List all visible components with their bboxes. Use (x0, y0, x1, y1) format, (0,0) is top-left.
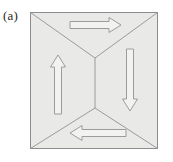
figure-panel: (a) (0, 0, 173, 162)
domain-structure-diagram (0, 0, 173, 162)
domain-fills (30, 12, 158, 149)
